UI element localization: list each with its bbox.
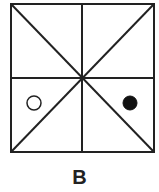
filled-circle-marker [123,96,137,110]
figure-label: B [0,166,159,189]
divided-square-diagram [0,0,159,192]
open-circle-marker [27,96,41,110]
